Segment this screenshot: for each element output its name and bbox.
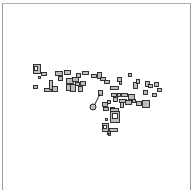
building-footprint bbox=[114, 98, 118, 102]
building-footprint bbox=[113, 114, 118, 119]
building-footprint bbox=[129, 95, 135, 100]
building-footprint bbox=[108, 101, 111, 104]
building-footprint bbox=[42, 73, 47, 76]
building-footprint bbox=[53, 87, 58, 92]
building-footprint bbox=[92, 75, 97, 78]
building-footprint bbox=[104, 126, 107, 129]
building-footprint bbox=[65, 71, 71, 75]
building-footprint bbox=[149, 85, 153, 88]
building-footprint bbox=[81, 82, 86, 86]
building-footprint bbox=[155, 83, 159, 87]
building-footprint bbox=[34, 86, 38, 89]
building-footprint bbox=[144, 91, 148, 95]
building-footprint bbox=[109, 134, 111, 136]
building-footprint bbox=[126, 101, 132, 105]
building-footprint bbox=[118, 94, 121, 97]
building-footprint bbox=[73, 78, 79, 82]
building-footprint bbox=[143, 101, 150, 108]
building-footprint bbox=[83, 72, 89, 75]
building-footprint-map[interactable] bbox=[0, 0, 195, 190]
building-footprint bbox=[133, 100, 136, 103]
building-footprint bbox=[35, 67, 38, 71]
building-footprint bbox=[39, 77, 41, 79]
building-footprint bbox=[104, 108, 109, 111]
building-footprint bbox=[106, 119, 108, 121]
building-footprint bbox=[105, 81, 110, 84]
building-footprint bbox=[67, 85, 71, 91]
building-footprint bbox=[120, 82, 122, 85]
building-footprint bbox=[77, 74, 81, 78]
building-footprint bbox=[112, 94, 117, 97]
building-footprint bbox=[59, 77, 63, 81]
building-footprint bbox=[137, 102, 142, 106]
building-footprint bbox=[153, 94, 157, 97]
building-footprint bbox=[118, 78, 122, 82]
building-footprint bbox=[158, 89, 162, 92]
building-footprint bbox=[50, 81, 53, 90]
location-marker-icon bbox=[90, 104, 96, 110]
building-footprint bbox=[111, 87, 119, 90]
building-footprint bbox=[56, 72, 63, 76]
building-footprint bbox=[129, 74, 132, 77]
building-footprint bbox=[122, 94, 128, 97]
building-footprint bbox=[71, 85, 76, 92]
building-footprint bbox=[121, 103, 124, 108]
building-footprint bbox=[79, 87, 83, 92]
building-footprint bbox=[76, 83, 80, 86]
building-footprint bbox=[137, 80, 140, 84]
building-footprint bbox=[103, 103, 108, 107]
